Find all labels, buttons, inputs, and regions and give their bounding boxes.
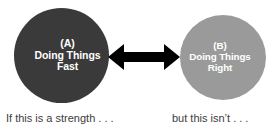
node-a-doing-things-fast: (A) Doing Things Fast — [14, 8, 109, 103]
node-b-line2: Right — [208, 63, 233, 74]
caption-left: If this is a strength . . . — [6, 113, 114, 124]
tradeoff-diagram: (A) Doing Things Fast (B) Doing Things R… — [0, 0, 279, 135]
node-a-line2: Fast — [57, 61, 78, 73]
node-a-tag: (A) — [60, 38, 74, 50]
node-b-doing-things-right: (B) Doing Things Right — [180, 15, 266, 100]
caption-right: but this isn’t . . . — [172, 113, 248, 124]
double-headed-arrow-icon — [108, 42, 180, 72]
